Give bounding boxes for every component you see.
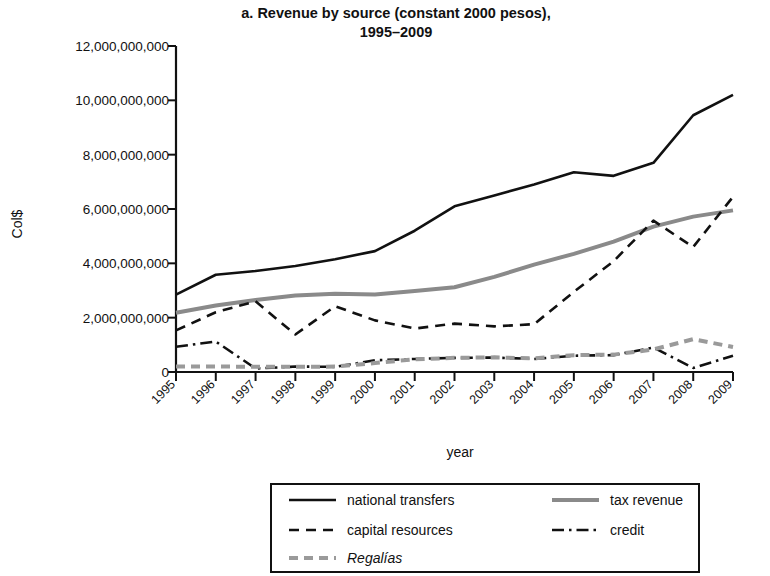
legend-label: Regalías	[347, 550, 402, 566]
y-tick-label: 6,000,000,000	[83, 202, 169, 217]
y-tick-label: 2,000,000,000	[83, 311, 169, 326]
legend-label: capital resources	[347, 522, 453, 538]
y-axis-title: Col$	[9, 209, 25, 238]
chart-title-line-1: a. Revenue by source (constant 2000 peso…	[241, 5, 550, 21]
figure-background	[0, 0, 770, 576]
y-tick-label: 8,000,000,000	[83, 148, 169, 163]
revenue-by-source-chart: a. Revenue by source (constant 2000 peso…	[0, 0, 770, 576]
y-tick-label: 10,000,000,000	[75, 93, 169, 108]
y-tick-label: 4,000,000,000	[83, 256, 169, 271]
legend-label: credit	[610, 522, 644, 538]
y-tick-label: 12,000,000,000	[75, 39, 169, 54]
x-axis-title: year	[446, 444, 474, 460]
legend-label: tax revenue	[610, 492, 683, 508]
chart-title-line-2: 1995–2009	[360, 24, 433, 40]
legend-label: national transfers	[347, 492, 454, 508]
